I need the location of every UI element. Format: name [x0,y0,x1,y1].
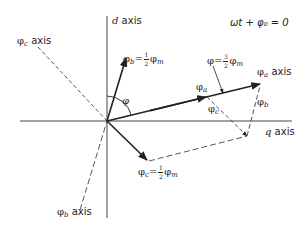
d-axis-label: d axis [112,16,142,26]
condition-text: ωt + φ₀ = 0 [230,17,289,28]
phi-b-symbol: φ [123,53,130,64]
phi-c-axis-line [38,47,107,121]
phi-c-axis-sub: c [24,40,28,48]
phi-c-axis-label: φc axis [17,36,51,48]
phi-b-fraction: 12 [144,52,149,67]
condition-label: ωt + φ₀ = 0 [230,18,289,28]
phi-b-axis-sub: b [64,211,68,219]
phi-c-axis-word: axis [31,35,51,46]
phi-a-component-label: φa [196,82,207,94]
phi-a-component-vector [150,97,206,111]
d-axis-var: d [112,15,118,26]
phi-b-axis-symbol: φ [57,206,64,217]
phi-b-comp-sub: b [264,101,268,109]
phi-a-axis-label: φa axis [257,67,291,79]
phi-b-vector-label: φb=12φm [123,52,164,67]
phi-b-axis-word: axis [72,206,92,217]
phi-c-vector-label: φc=12φm [138,165,178,180]
phi-c-component-label: φc [208,104,219,116]
phi-b-rhs: φ [150,53,157,64]
q-axis-label: q axis [265,127,295,137]
phi-total-den: 2 [224,63,228,69]
phi-total-eq: = [214,55,222,66]
phi-c-den: 2 [159,174,163,180]
phi-total-symbol: φ [207,55,214,66]
phi-c-comp-sub: c [215,108,219,116]
phi-b-axis-label: φb axis [57,207,92,219]
phi-total-label: φ=32φm [207,54,243,69]
phi-a-axis-sub: a [264,71,268,79]
phi-b-rhs-sub: m [157,58,164,66]
phi-b-den: 2 [144,61,148,67]
phi-c-num: 1 [159,165,163,171]
phi-a-comp-sub: a [203,86,207,94]
phi-c-symbol: φ [138,166,145,177]
phi-b-axis-line [80,121,107,210]
phi-c-axis-symbol: φ [17,35,24,46]
phi-total-num: 3 [224,54,228,60]
phi-b-eq: = [135,53,143,64]
phi-c-comp-symbol: φ [208,103,215,114]
angle-label: φ [122,96,129,106]
phi-total-fraction: 32 [223,54,228,69]
phi-b-comp-symbol: φ [257,96,264,107]
phi-a-axis-word: axis [271,66,291,77]
phi-total-pointer [213,66,223,93]
phi-total-rhs-sub: m [236,60,243,68]
phi-b-component-label: φb [257,97,269,109]
phi-c-eq: = [149,166,157,177]
phi-c-translated-dashed [149,136,247,161]
d-axis-word: axis [122,15,142,26]
phi-b-vector [107,58,126,121]
phi-b-component-dashed [247,86,260,136]
phi-c-vector [107,121,147,160]
q-axis-word: axis [275,126,295,137]
q-axis-var: q [265,126,271,137]
phi-c-fraction: 12 [158,165,163,180]
phi-c-rhs-sub: m [171,171,178,179]
phi-a-axis-symbol: φ [257,66,264,77]
phi-a-comp-symbol: φ [196,81,203,92]
phi-b-num: 1 [144,52,148,58]
